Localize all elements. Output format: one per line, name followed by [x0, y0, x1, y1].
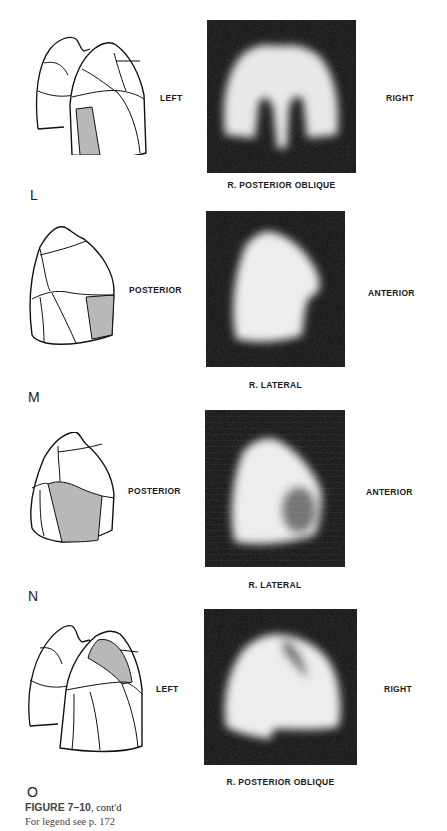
scintigraphy-scan-icon [206, 211, 345, 367]
orientation-label-anterior: ANTERIOR [368, 288, 415, 298]
scan-artifact-lines [205, 410, 345, 567]
scan-caption: R. POSTERIOR OBLIQUE [204, 777, 357, 787]
lung-diagram-panel-m [26, 225, 126, 350]
scan-caption: R. LATERAL [205, 580, 345, 590]
orientation-label-left: LEFT [160, 93, 182, 103]
figure-suffix: , cont'd [91, 802, 121, 813]
lung-outline-icon [30, 35, 150, 155]
lung-diagram-panel-l [30, 35, 150, 155]
lung-outline-icon [26, 225, 126, 350]
lung-scan-image-panel-l [207, 20, 356, 173]
panel-letter: L [30, 187, 38, 203]
lung-scan-image-panel-n [205, 410, 345, 567]
orientation-label-posterior: POSTERIOR [128, 486, 181, 496]
scan-caption: R. LATERAL [206, 380, 345, 390]
scintigraphy-scan-icon [204, 609, 357, 765]
figure-number: FIGURE 7–10 [25, 801, 91, 813]
figure-legend-reference: For legend see p. 172 [25, 816, 115, 827]
lung-diagram-panel-n [28, 432, 118, 544]
orientation-label-posterior: POSTERIOR [129, 285, 182, 295]
orientation-label-right: RIGHT [384, 684, 412, 694]
scintigraphy-scan-icon [207, 20, 356, 173]
panel-letter: N [28, 588, 38, 604]
scan-caption: R. POSTERIOR OBLIQUE [207, 180, 356, 190]
panel-letter: M [28, 389, 40, 405]
orientation-label-right: RIGHT [386, 93, 414, 103]
orientation-label-anterior: ANTERIOR [366, 487, 413, 497]
lung-outline-icon [28, 432, 118, 544]
orientation-label-left: LEFT [156, 684, 178, 694]
panel-letter: O [27, 784, 38, 800]
lung-scan-image-panel-o [204, 609, 357, 765]
figure-title: FIGURE 7–10, cont'd [25, 801, 121, 813]
lung-outline-icon [26, 624, 146, 754]
lung-scan-image-panel-m [206, 211, 345, 367]
lung-diagram-panel-o [26, 624, 146, 754]
